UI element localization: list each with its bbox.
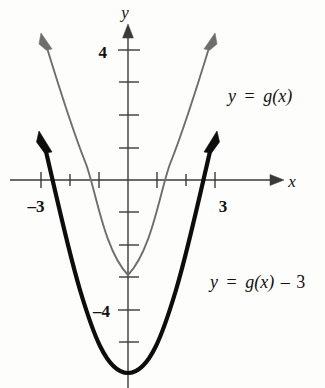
curve-lower-right-arrow-icon (204, 131, 220, 153)
x-axis-arrow-icon (270, 175, 284, 186)
curve-lower-label-shift: 3 (296, 272, 305, 292)
x-tick-label--3: –3 (27, 197, 45, 216)
y-tick-label-4: 4 (99, 43, 108, 62)
y-axis-ticks (118, 50, 140, 342)
curve-upper-label-equals: = (245, 86, 255, 106)
graph-figure: 4 –4 –3 3 x y y = g(x) y = g(x) – 3 (0, 0, 325, 388)
x-tick-label-3: 3 (219, 197, 228, 216)
curve-lower-label-equals: = (227, 272, 237, 292)
curve-upper-label: y = g(x) (226, 86, 292, 107)
curve-lower-label-minus: – (280, 272, 291, 292)
curve-upper-label-fn: g(x) (263, 86, 292, 107)
curve-lower-label-fn: g(x) (245, 272, 274, 293)
curve-upper-label-y: y (226, 86, 236, 106)
x-axis-label: x (287, 172, 296, 191)
curve-upper-right-arrow-icon (204, 33, 217, 50)
axes-group (10, 24, 284, 388)
y-axis-label: y (119, 3, 129, 22)
curve-lower-label: y = g(x) – 3 (208, 272, 305, 293)
curve-upper-left-arrow-icon (39, 33, 52, 50)
y-axis-arrow-icon (123, 24, 134, 38)
curve-lower-label-y: y (208, 272, 218, 292)
coordinate-plane-svg: 4 –4 –3 3 x y y = g(x) y = g(x) – 3 (0, 0, 325, 388)
curve-lower-left-arrow-icon (37, 131, 53, 153)
y-tick-label--4: –4 (92, 302, 111, 321)
